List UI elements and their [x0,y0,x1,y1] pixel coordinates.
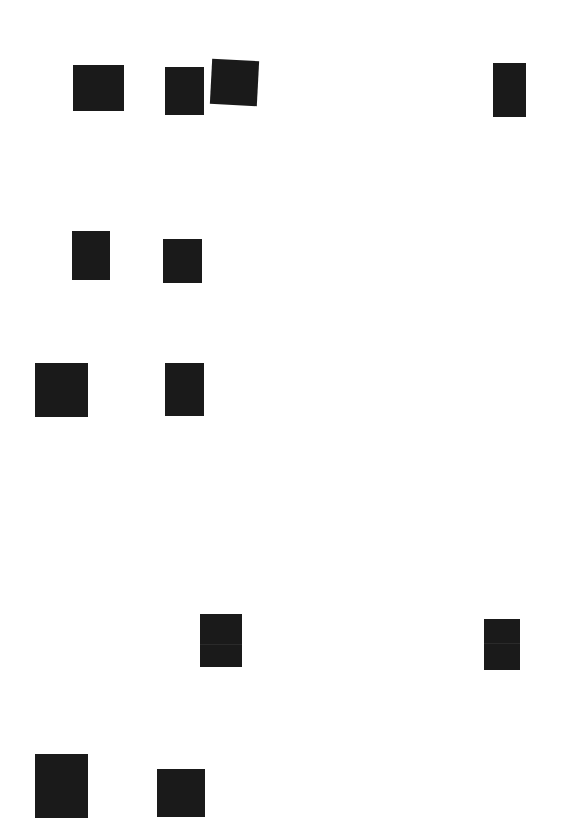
redaction-seam [484,643,520,644]
redaction-seam [200,644,242,645]
redacted-document-page [0,0,579,840]
redaction-box [35,754,88,818]
redaction-box [200,614,242,667]
redaction-box [72,231,110,280]
redaction-box [210,59,259,106]
redaction-box [165,363,204,416]
redaction-box [35,363,88,417]
redaction-box [493,63,526,117]
redaction-box [157,769,205,817]
redaction-box [484,619,520,670]
redaction-box [165,67,204,115]
redaction-box [163,239,202,283]
redaction-box [73,65,124,111]
